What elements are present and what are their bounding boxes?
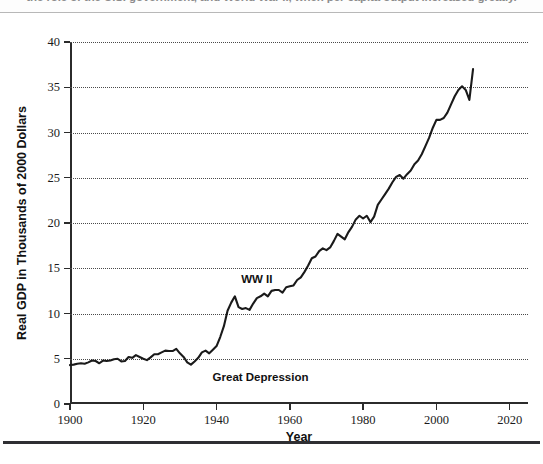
chart-container: Real GDP in Thousands of 2000 Dollars Ye… (0, 14, 543, 434)
x-tick-label-1940: 1940 (204, 413, 229, 428)
y-tick-label-10: 10 (48, 306, 61, 321)
x-tick-1920 (143, 404, 144, 410)
plot-area: 0510152025303540 19001920194019601980200… (70, 42, 528, 404)
y-tick-label-0: 0 (54, 397, 60, 412)
x-tick-label-1900: 1900 (58, 413, 83, 428)
caption-divider (0, 12, 543, 14)
y-tick-label-15: 15 (48, 261, 61, 276)
y-tick-label-35: 35 (48, 80, 61, 95)
x-tick-2000 (436, 404, 437, 410)
gdp-line-series (70, 42, 528, 404)
bottom-divider (3, 441, 540, 444)
y-tick-label-20: 20 (48, 216, 61, 231)
x-tick-label-1920: 1920 (131, 413, 156, 428)
x-tick-label-1980: 1980 (351, 413, 376, 428)
x-tick-1980 (362, 404, 363, 410)
x-tick-label-2020: 2020 (497, 413, 522, 428)
chart-page: the role of the U.S. government, and Wor… (0, 0, 543, 464)
x-tick-1960 (289, 404, 290, 410)
x-tick-label-2000: 2000 (424, 413, 449, 428)
x-tick-label-1960: 1960 (277, 413, 302, 428)
y-tick-label-30: 30 (48, 125, 61, 140)
y-tick-label-40: 40 (48, 35, 61, 50)
annotation-ww-ii: WW II (241, 273, 272, 285)
annotation-great-depression: Great Depression (213, 371, 309, 383)
x-tick-2020 (509, 404, 510, 410)
x-tick-1940 (216, 404, 217, 410)
x-tick-1900 (69, 404, 70, 410)
y-axis-title: Real GDP in Thousands of 2000 Dollars (14, 42, 30, 404)
caption-text: the role of the U.S. government, and Wor… (0, 0, 543, 3)
y-tick-label-25: 25 (48, 170, 61, 185)
y-tick-label-5: 5 (54, 351, 60, 366)
caption-strip: the role of the U.S. government, and Wor… (0, 0, 543, 13)
